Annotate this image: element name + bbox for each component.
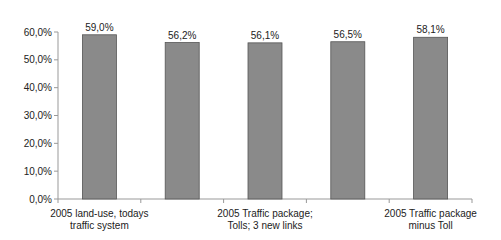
x-category-label: 2005 land-use, todays — [50, 208, 148, 219]
bar-value-label: 58,1% — [416, 24, 444, 35]
bar-value-label: 59,0% — [85, 22, 113, 33]
x-category-label: minus Toll — [408, 220, 452, 231]
bar — [165, 43, 199, 199]
y-tick-label: 50,0% — [24, 54, 52, 65]
bar — [331, 42, 365, 199]
bar-chart: 0,0%10,0%20,0%30,0%40,0%50,0%60,0%59,0%2… — [0, 0, 501, 240]
bar-value-label: 56,2% — [168, 30, 196, 41]
y-tick-label: 30,0% — [24, 110, 52, 121]
bar — [82, 35, 116, 199]
bar — [248, 43, 282, 199]
y-tick-label: 40,0% — [24, 82, 52, 93]
y-tick-label: 0,0% — [29, 194, 52, 205]
chart-plot-area: 0,0%10,0%20,0%30,0%40,0%50,0%60,0%59,0%2… — [0, 0, 501, 240]
y-tick-label: 20,0% — [24, 138, 52, 149]
y-tick-label: 60,0% — [24, 27, 52, 38]
bar — [414, 37, 448, 199]
x-category-label: 2005 Traffic package; — [217, 208, 312, 219]
x-category-label: traffic system — [70, 220, 129, 231]
bar-value-label: 56,5% — [334, 29, 362, 40]
x-category-label: 2005 Traffic package — [384, 208, 477, 219]
x-category-label: Tolls; 3 new links — [227, 220, 302, 231]
y-tick-label: 10,0% — [24, 166, 52, 177]
bar-value-label: 56,1% — [251, 30, 279, 41]
